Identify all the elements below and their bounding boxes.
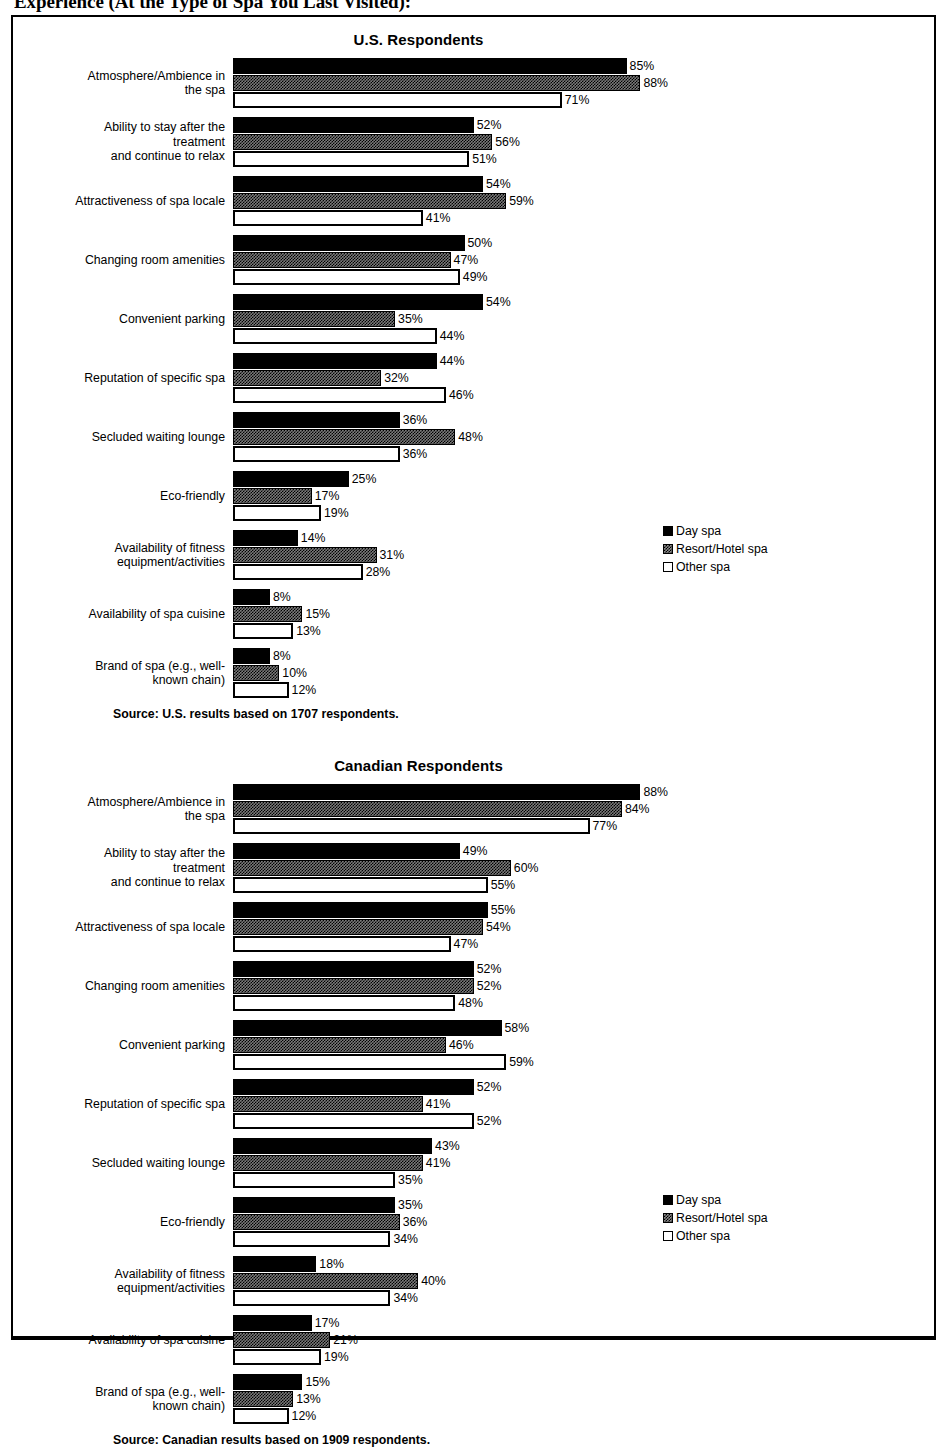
bar-row: 44% bbox=[233, 328, 934, 344]
hatched-square-icon bbox=[663, 544, 673, 554]
legend-item[interactable]: Resort/Hotel spa bbox=[663, 1209, 768, 1227]
bar-resort-hotel-spa bbox=[233, 75, 640, 91]
legend-item[interactable]: Resort/Hotel spa bbox=[663, 540, 768, 558]
bar-resort-hotel-spa bbox=[233, 488, 312, 504]
chart-group: Availability of fitnessequipment/activit… bbox=[13, 530, 934, 580]
bar-row: 35% bbox=[233, 1197, 934, 1213]
bar-day-spa bbox=[233, 784, 640, 800]
chart-group: Brand of spa (e.g., well-known chain)15%… bbox=[13, 1374, 934, 1424]
bar-value-label: 41% bbox=[423, 1096, 451, 1112]
bar-value-label: 52% bbox=[474, 978, 502, 994]
bar-row: 44% bbox=[233, 353, 934, 369]
source-note-canada: Source: Canadian results based on 1909 r… bbox=[113, 1433, 934, 1447]
bar-row: 8% bbox=[233, 589, 934, 605]
bar-day-spa bbox=[233, 902, 488, 918]
category-label: Attractiveness of spa locale bbox=[13, 194, 233, 209]
bar-value-label: 59% bbox=[506, 1054, 534, 1070]
bar-value-label: 21% bbox=[330, 1332, 358, 1348]
legend-item[interactable]: Day spa bbox=[663, 522, 768, 540]
bar-row: 41% bbox=[233, 210, 934, 226]
chart-legend-us: Day spaResort/Hotel spaOther spa bbox=[663, 522, 768, 576]
bar-resort-hotel-spa bbox=[233, 547, 377, 563]
bar-value-label: 52% bbox=[474, 1113, 502, 1129]
bar-value-label: 44% bbox=[437, 328, 465, 344]
bar-row: 10% bbox=[233, 665, 934, 681]
bar-row: 8% bbox=[233, 648, 934, 664]
source-note-us: Source: U.S. results based on 1707 respo… bbox=[113, 707, 934, 721]
bar-value-label: 12% bbox=[289, 682, 317, 698]
bar-row: 35% bbox=[233, 1172, 934, 1188]
bar-row: 52% bbox=[233, 1079, 934, 1095]
bar-row: 18% bbox=[233, 1256, 934, 1272]
bar-value-label: 71% bbox=[562, 92, 590, 108]
bar-group: 50%47%49% bbox=[233, 235, 934, 285]
bar-row: 48% bbox=[233, 995, 934, 1011]
bar-group: 55%54%47% bbox=[233, 902, 934, 952]
bar-day-spa bbox=[233, 235, 465, 251]
category-label: Ability to stay after thetreatmentand co… bbox=[13, 120, 233, 164]
bar-group: 52%41%52% bbox=[233, 1079, 934, 1129]
legend-item[interactable]: Other spa bbox=[663, 558, 768, 576]
category-label: Secluded waiting lounge bbox=[13, 430, 233, 445]
bar-row: 84% bbox=[233, 801, 934, 817]
legend-item[interactable]: Other spa bbox=[663, 1227, 768, 1245]
bar-other-spa bbox=[233, 936, 451, 952]
bar-value-label: 47% bbox=[451, 252, 479, 268]
bar-day-spa bbox=[233, 1256, 316, 1272]
bar-other-spa bbox=[233, 1172, 395, 1188]
category-label: Eco-friendly bbox=[13, 489, 233, 504]
category-label: Availability of spa cuisine bbox=[13, 1333, 233, 1348]
category-label: Atmosphere/Ambience inthe spa bbox=[13, 795, 233, 824]
bar-row: 50% bbox=[233, 235, 934, 251]
bar-group: 36%48%36% bbox=[233, 412, 934, 462]
legend-item-label: Other spa bbox=[676, 1227, 730, 1245]
bar-row: 51% bbox=[233, 151, 934, 167]
panel-title-canada: Canadian Respondents bbox=[0, 743, 934, 784]
bar-value-label: 36% bbox=[400, 446, 428, 462]
bar-resort-hotel-spa bbox=[233, 1332, 330, 1348]
bar-other-spa bbox=[233, 1113, 474, 1129]
bar-day-spa bbox=[233, 1315, 312, 1331]
bar-group: 58%46%59% bbox=[233, 1020, 934, 1070]
bar-row: 54% bbox=[233, 294, 934, 310]
chart-group: Reputation of specific spa44%32%46% bbox=[13, 353, 934, 403]
bar-group: 35%36%34% bbox=[233, 1197, 934, 1247]
hatched-square-icon bbox=[663, 1213, 673, 1223]
bar-value-label: 36% bbox=[400, 412, 428, 428]
bar-value-label: 13% bbox=[293, 623, 321, 639]
bar-resort-hotel-spa bbox=[233, 311, 395, 327]
bar-value-label: 17% bbox=[312, 1315, 340, 1331]
bar-value-label: 10% bbox=[279, 665, 307, 681]
chart-group: Ability to stay after thetreatmentand co… bbox=[13, 117, 934, 167]
bar-row: 43% bbox=[233, 1138, 934, 1154]
figure-frame: U.S. Respondents Atmosphere/Ambience int… bbox=[11, 15, 936, 1340]
bar-day-spa bbox=[233, 294, 483, 310]
bar-value-label: 47% bbox=[451, 936, 479, 952]
bar-value-label: 54% bbox=[483, 176, 511, 192]
bar-resort-hotel-spa bbox=[233, 860, 511, 876]
chart-group: Availability of spa cuisine17%21%19% bbox=[13, 1315, 934, 1365]
legend-item-label: Day spa bbox=[676, 522, 721, 540]
bar-day-spa bbox=[233, 530, 298, 546]
panel-us-respondents: U.S. Respondents Atmosphere/Ambience int… bbox=[13, 17, 934, 721]
bar-value-label: 44% bbox=[437, 353, 465, 369]
chart-group: Eco-friendly25%17%19% bbox=[13, 471, 934, 521]
bar-other-spa bbox=[233, 328, 437, 344]
bar-value-label: 55% bbox=[488, 877, 516, 893]
bar-other-spa bbox=[233, 818, 590, 834]
bar-group: 8%15%13% bbox=[233, 589, 934, 639]
bar-other-spa bbox=[233, 682, 289, 698]
category-label: Brand of spa (e.g., well-known chain) bbox=[13, 659, 233, 688]
bar-other-spa bbox=[233, 1408, 289, 1424]
bar-group: 88%84%77% bbox=[233, 784, 934, 834]
legend-item[interactable]: Day spa bbox=[663, 1191, 768, 1209]
bar-row: 49% bbox=[233, 269, 934, 285]
category-label: Availability of fitnessequipment/activit… bbox=[13, 1267, 233, 1296]
bar-resort-hotel-spa bbox=[233, 252, 451, 268]
bar-other-spa bbox=[233, 151, 469, 167]
bar-row: 48% bbox=[233, 429, 934, 445]
bar-value-label: 28% bbox=[363, 564, 391, 580]
chart-group: Changing room amenities50%47%49% bbox=[13, 235, 934, 285]
bar-row: 19% bbox=[233, 505, 934, 521]
category-label: Ability to stay after thetreatmentand co… bbox=[13, 846, 233, 890]
